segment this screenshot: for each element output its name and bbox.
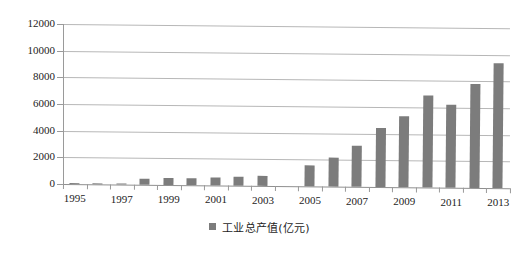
legend-color-swatch [209, 223, 216, 230]
x-axis-tick-19 [510, 188, 511, 193]
x-axis-label-2001: 2001 [196, 193, 236, 206]
y-axis-label-0: 0 [3, 178, 55, 189]
x-axis-label-1999: 1999 [149, 193, 189, 206]
chart-legend: 工业总产值(亿元) [0, 219, 519, 235]
bar-2012 [469, 84, 480, 188]
x-axis-tick-labels: 1995199719992001200320052007200920112013 [63, 192, 510, 208]
bar-2007 [352, 146, 362, 187]
bar-2013 [493, 63, 504, 188]
x-axis-tick-8 [251, 186, 252, 191]
bar-2003 [257, 176, 267, 186]
bar-2010 [422, 95, 433, 187]
x-axis-tick-12 [345, 187, 346, 192]
y-axis-label-6000: 6000 [3, 98, 55, 109]
bar-2011 [446, 104, 457, 187]
x-axis-label-2007: 2007 [337, 195, 377, 208]
y-axis-label-2000: 2000 [3, 151, 55, 162]
x-axis-tick-0 [63, 184, 64, 189]
x-axis-label-1997: 1997 [102, 193, 142, 206]
x-axis-label-2011: 2011 [431, 196, 471, 209]
bar-series-group [62, 24, 510, 188]
x-axis-tick-3 [134, 185, 135, 190]
legend-label: 工业总产值(亿元) [222, 219, 309, 235]
x-axis-label-2003: 2003 [243, 194, 283, 207]
bar-2000 [187, 178, 197, 186]
x-axis-tick-4 [157, 185, 158, 190]
x-axis-label-2009: 2009 [384, 195, 424, 208]
bar-2006 [328, 158, 338, 187]
x-axis-tick-5 [181, 185, 182, 190]
y-axis-label-12000: 12000 [3, 18, 55, 29]
y-axis-label-4000: 4000 [3, 125, 55, 136]
chart-page: 020004000600080001000012000 199519971999… [0, 0, 519, 254]
y-axis-tick-labels: 020004000600080001000012000 [0, 0, 55, 254]
x-axis-tick-6 [204, 185, 205, 190]
x-axis-tick-11 [322, 186, 323, 191]
legend-item: 工业总产值(亿元) [209, 219, 309, 235]
x-axis-tick-2 [110, 184, 111, 189]
bar-2009 [399, 116, 410, 187]
y-axis-label-8000: 8000 [3, 71, 55, 82]
x-axis-label-1995: 1995 [55, 192, 95, 205]
x-axis-label-2005: 2005 [290, 194, 330, 207]
y-axis-label-10000: 10000 [3, 45, 55, 56]
bar-2001 [210, 177, 220, 185]
x-axis-tick-9 [275, 186, 276, 191]
x-axis-tick-7 [228, 186, 229, 191]
x-axis-tick-1 [86, 184, 87, 189]
x-axis-label-2013: 2013 [478, 196, 518, 209]
bar-2005 [304, 166, 314, 187]
x-axis-tick-10 [298, 186, 299, 191]
bar-2008 [375, 128, 386, 187]
bar-2002 [234, 177, 244, 186]
